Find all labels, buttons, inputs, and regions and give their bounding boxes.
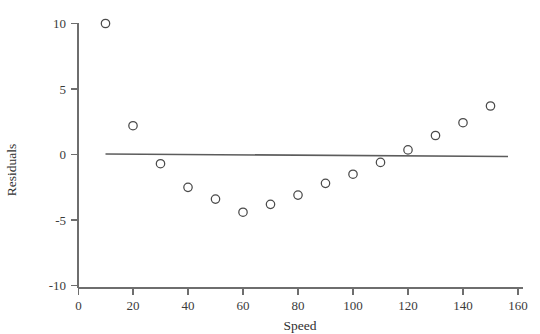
x-tick-label-160: 160 bbox=[508, 298, 528, 313]
data-point bbox=[184, 183, 192, 191]
data-point bbox=[239, 208, 247, 216]
data-point bbox=[459, 119, 467, 127]
residual-plot-figure: 10 5 0 -5 -10 0 20 40 60 80 100 bbox=[0, 0, 540, 334]
data-point bbox=[321, 179, 329, 187]
data-point bbox=[101, 19, 109, 27]
data-point bbox=[376, 158, 384, 166]
data-point-series bbox=[101, 19, 494, 216]
x-axis-ticks: 0 20 40 60 80 100 120 140 160 bbox=[75, 288, 528, 313]
x-tick-label-40: 40 bbox=[182, 298, 195, 313]
data-point bbox=[349, 170, 357, 178]
data-point bbox=[156, 160, 164, 168]
x-tick-label-100: 100 bbox=[343, 298, 363, 313]
data-point bbox=[266, 200, 274, 208]
y-tick-label-10: 10 bbox=[53, 16, 66, 31]
data-point bbox=[431, 131, 439, 139]
x-axis-title: Speed bbox=[284, 318, 317, 333]
y-axis-title: Residuals bbox=[4, 144, 19, 197]
y-axis-ticks: 10 5 0 -5 -10 bbox=[49, 16, 78, 293]
zero-reference-line bbox=[106, 154, 509, 157]
data-point bbox=[486, 102, 494, 110]
x-tick-label-60: 60 bbox=[237, 298, 250, 313]
x-tick-label-20: 20 bbox=[127, 298, 140, 313]
y-tick-label-minus5: -5 bbox=[55, 213, 66, 228]
data-point bbox=[211, 195, 219, 203]
data-point bbox=[294, 191, 302, 199]
y-tick-label-minus10: -10 bbox=[49, 278, 66, 293]
y-tick-label-0: 0 bbox=[60, 147, 67, 162]
data-point bbox=[404, 146, 412, 154]
data-point bbox=[129, 122, 137, 130]
x-tick-label-80: 80 bbox=[292, 298, 305, 313]
scatter-chart-canvas: 10 5 0 -5 -10 0 20 40 60 80 100 bbox=[0, 0, 540, 334]
x-tick-label-140: 140 bbox=[453, 298, 473, 313]
x-tick-label-120: 120 bbox=[398, 298, 418, 313]
x-tick-label-0: 0 bbox=[75, 298, 82, 313]
y-tick-label-5: 5 bbox=[60, 82, 67, 97]
